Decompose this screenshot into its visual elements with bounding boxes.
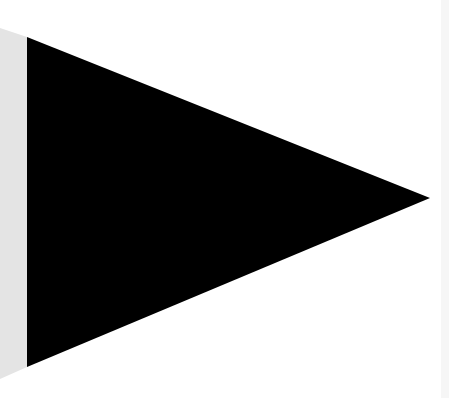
pennant-canvas [0,0,449,398]
side-strip-shape [0,28,27,379]
pennant-graphic [0,0,449,398]
triangle-pennant-shape [27,37,430,367]
right-edge-strip [441,0,449,398]
